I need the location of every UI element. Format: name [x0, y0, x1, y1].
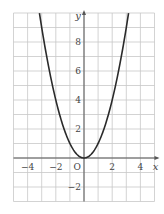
- y-tick-label: 2: [75, 124, 81, 134]
- x-tick-label: 2: [109, 162, 115, 172]
- x-tick-label: −2: [49, 162, 62, 172]
- y-tick-label: −2: [68, 182, 81, 192]
- origin-label: O: [74, 162, 81, 172]
- y-tick-label: 6: [75, 66, 81, 76]
- y-tick-label: 8: [75, 37, 81, 47]
- parabola-chart: −4−2248642−2Oxy: [0, 0, 164, 214]
- y-tick-label: 4: [75, 95, 81, 105]
- x-axis-arrow-icon: [155, 156, 160, 160]
- x-axis-label: x: [153, 161, 159, 172]
- y-axis-label: y: [74, 10, 81, 21]
- x-tick-label: 4: [138, 162, 144, 172]
- x-tick-label: −4: [21, 162, 35, 172]
- y-axis-arrow-icon: [82, 10, 86, 15]
